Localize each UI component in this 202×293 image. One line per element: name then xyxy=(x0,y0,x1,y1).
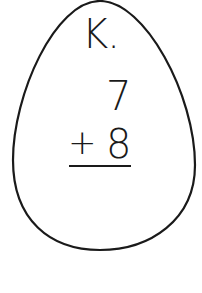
addend-bottom: 8 xyxy=(106,124,131,164)
addend-top: 7 xyxy=(106,76,131,116)
worksheet-problem-card: K. 7 + 8 xyxy=(0,0,202,293)
plus-operator: + xyxy=(68,125,97,159)
problem-label: K. xyxy=(82,14,119,54)
answer-line xyxy=(69,165,131,167)
